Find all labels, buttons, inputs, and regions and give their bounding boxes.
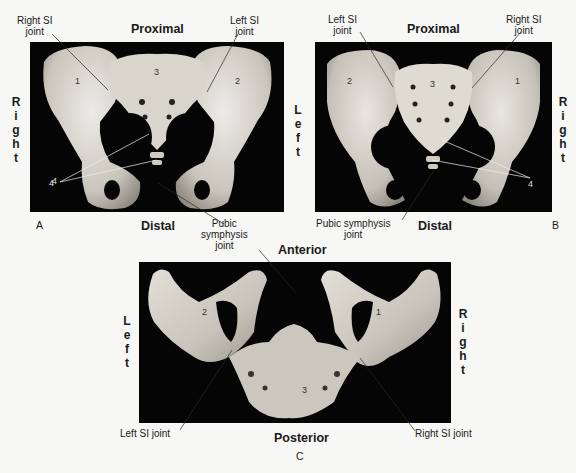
panel-a-letter: A — [36, 219, 43, 231]
panel-a-right-si-joint-text: joint — [26, 26, 44, 37]
bone-number-1: 1 — [75, 76, 80, 86]
panel-c-anterior-label: Anterior — [278, 243, 327, 257]
panel-b-right-si-label: Right SI joint — [506, 14, 542, 36]
panel-a-distal-label: Distal — [141, 219, 175, 233]
panel-b-right-si-text: Right SI — [506, 14, 542, 25]
panel-b-left-si-joint-text: joint — [333, 25, 351, 36]
panel-b-distal-label: Distal — [418, 219, 452, 233]
panel-a-left-si-label: Left SI joint — [230, 15, 259, 37]
pelvis-anterior-view-illustration: 1 2 3 4 — [30, 42, 284, 212]
panel-b-joint-text: joint — [344, 229, 362, 240]
pelvis-posterior-view-illustration: 2 3 1 4 — [315, 42, 552, 212]
bone-number-2: 2 — [347, 76, 352, 86]
panel-a-left-si-joint-text: joint — [235, 26, 253, 37]
panel-a-symphysis-text: symphysis — [201, 229, 248, 240]
panel-a-right-si-label: Right SI joint — [17, 15, 53, 37]
callout-number-4: 4 — [52, 176, 57, 186]
bone-number-3: 3 — [302, 385, 307, 395]
panel-c-right-side-label: Right — [457, 307, 469, 377]
panel-b-right-side-label: Right — [557, 95, 569, 165]
panel-c-image: 2 1 3 — [139, 262, 451, 423]
bone-number-1: 1 — [376, 307, 381, 317]
panel-a-right-si-text: Right SI — [17, 15, 53, 26]
panel-b-proximal-label: Proximal — [407, 22, 460, 36]
pelvis-superior-view-illustration: 2 1 3 — [139, 262, 451, 423]
panel-c-right-si-joint-label: Right SI joint — [415, 428, 472, 439]
panel-b-left-side-label: Left — [292, 103, 304, 159]
panel-a-pubic-symphysis-label: Pubic symphysis joint — [201, 218, 248, 251]
bone-number-2: 2 — [202, 307, 207, 317]
panel-a-image: 1 2 3 4 — [30, 42, 284, 212]
panel-b-right-si-joint-text: joint — [515, 25, 533, 36]
panel-b-left-si-label: Left SI joint — [328, 14, 357, 36]
panel-c-posterior-label: Posterior — [274, 431, 329, 445]
panel-b-pubic-symphysis-text: Pubic symphysis — [316, 218, 390, 229]
bone-number-3: 3 — [430, 79, 435, 89]
panel-c-left-si-joint-label: Left SI joint — [120, 428, 170, 439]
panel-b-left-si-text: Left SI — [328, 14, 357, 25]
panel-a-left-si-text: Left SI — [230, 15, 259, 26]
panel-a-proximal-label: Proximal — [131, 22, 184, 36]
panel-c-left-side-label: Left — [121, 314, 133, 370]
panel-a-pubic-text: Pubic — [212, 218, 237, 229]
panel-b-letter: B — [552, 219, 559, 231]
panel-a-right-side-label: Right — [10, 95, 22, 165]
panel-c-letter: C — [296, 450, 304, 462]
panel-a-joint-text: joint — [215, 240, 233, 251]
bone-number-1: 1 — [515, 76, 520, 86]
bone-number-2: 2 — [235, 76, 240, 86]
panel-b-number-4: 4 — [528, 179, 533, 189]
panel-b-pubic-symphysis-label: Pubic symphysis joint — [316, 218, 390, 240]
bone-number-3: 3 — [154, 67, 159, 77]
panel-b-image: 2 3 1 4 — [315, 42, 552, 212]
